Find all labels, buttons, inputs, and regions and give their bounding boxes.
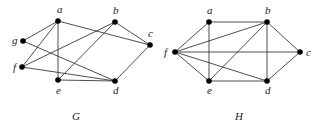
vertex-label-g-e: e: [56, 84, 61, 96]
vertex-g-b: [112, 19, 118, 25]
graph-g-caption: G: [72, 110, 80, 122]
vertex-g-f: [19, 64, 25, 70]
vertex-label-g-f: f: [13, 61, 18, 73]
edge-g-g-d: [23, 41, 115, 81]
vertex-label-h-f: f: [164, 46, 169, 58]
vertex-label-h-b: b: [265, 4, 271, 16]
edge-h-f-d: [175, 52, 267, 81]
graph-h-labels: abcdef: [164, 4, 311, 96]
vertex-h-b: [264, 19, 270, 25]
graph-g-edges: [22, 21, 150, 81]
graph-h: abcdef H: [164, 4, 311, 122]
vertex-label-g-b: b: [113, 4, 119, 16]
edge-g-e-b: [58, 22, 115, 80]
vertex-g-a: [55, 18, 61, 24]
vertex-label-g-g: g: [12, 34, 18, 46]
vertex-label-h-d: d: [265, 84, 271, 96]
vertex-label-h-c: c: [306, 46, 311, 58]
vertex-label-h-e: e: [207, 84, 212, 96]
vertex-g-g: [20, 38, 26, 44]
graph-g: abcdefg G: [12, 3, 153, 122]
graph-h-edges: [175, 22, 300, 81]
edge-g-b-c: [115, 22, 150, 45]
vertex-h-f: [172, 49, 178, 55]
edge-h-b-c: [267, 22, 300, 52]
vertex-label-h-a: a: [207, 4, 213, 16]
vertex-h-d: [264, 78, 270, 84]
vertex-h-a: [206, 19, 212, 25]
edge-h-f-a: [175, 22, 209, 52]
edge-g-c-d: [115, 45, 150, 81]
vertex-label-g-c: c: [148, 27, 153, 39]
vertex-g-c: [147, 42, 153, 48]
graph-diagram-canvas: abcdefg G abcdef H: [0, 0, 319, 132]
edge-g-f-b: [22, 22, 115, 67]
graph-h-caption: H: [234, 110, 244, 122]
edge-h-f-b: [175, 22, 267, 52]
graph-g-labels: abcdefg: [12, 3, 153, 96]
vertex-h-e: [206, 78, 212, 84]
edge-g-a-g: [23, 21, 58, 41]
vertex-label-g-a: a: [57, 3, 63, 15]
edge-h-d-c: [267, 52, 300, 81]
edge-h-f-e: [175, 52, 209, 81]
edge-g-a-f: [22, 21, 58, 67]
vertex-h-c: [297, 49, 303, 55]
vertex-g-d: [112, 78, 118, 84]
vertex-g-e: [55, 77, 61, 83]
vertex-label-g-d: d: [113, 84, 119, 96]
